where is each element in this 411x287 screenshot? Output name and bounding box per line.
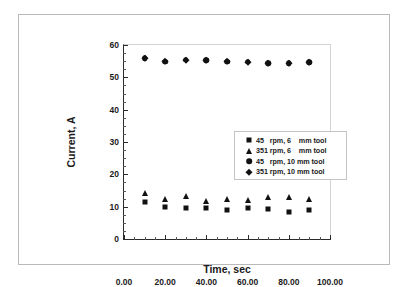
x-axis-title: Time, sec [123, 263, 331, 275]
x-tick-minor [155, 237, 156, 240]
triangle-marker-icon [244, 146, 254, 156]
y-tick-minor [123, 61, 126, 62]
x-tick-minor [320, 237, 321, 240]
x-tick-minor [145, 237, 146, 240]
x-tick-minor [227, 237, 228, 240]
data-point [162, 196, 168, 202]
y-tick-label: 10 [110, 202, 124, 212]
x-tick-major [330, 235, 331, 240]
y-tick-minor [123, 223, 126, 224]
legend-item: 351 rpm, 10 mm tool [235, 167, 346, 178]
y-tick-minor [123, 126, 126, 127]
y-tick-minor [123, 150, 126, 151]
legend-item: 351 rpm, 6 mm tool [235, 146, 346, 157]
x-tick-label: 40.00 [196, 277, 217, 287]
data-point [183, 206, 188, 211]
x-tick-label: 80.00 [278, 277, 299, 287]
x-tick-minor [279, 237, 280, 240]
x-tick-minor [258, 237, 259, 240]
x-tick-label: 100.00 [317, 277, 343, 287]
data-point [204, 206, 209, 211]
x-tick-minor [217, 237, 218, 240]
square-marker-icon [244, 135, 254, 145]
circle-marker-icon [244, 156, 254, 166]
y-tick-minor [123, 158, 126, 159]
data-point [224, 196, 230, 202]
data-point [266, 206, 271, 211]
legend-item-label: 351 rpm, 10 mm tool [256, 167, 325, 176]
legend-item-label: 45 rpm, 6 mm tool [256, 136, 326, 145]
x-tick-label: 60.00 [237, 277, 258, 287]
y-tick-minor [123, 118, 126, 119]
data-point [245, 206, 250, 211]
data-point [203, 198, 209, 204]
data-point [286, 209, 291, 214]
y-tick-label: 20 [110, 169, 124, 179]
x-tick-minor [309, 237, 310, 240]
data-point [163, 204, 168, 209]
y-tick-minor [123, 215, 126, 216]
data-point [225, 207, 230, 212]
data-point [265, 194, 271, 200]
y-tick-minor [123, 199, 126, 200]
x-tick-minor [176, 237, 177, 240]
y-tick-label: 30 [110, 137, 124, 147]
y-tick-minor [123, 191, 126, 192]
y-tick-minor [123, 94, 126, 95]
x-tick-minor [186, 237, 187, 240]
legend-item: 45 rpm, 10 mm tool [235, 156, 346, 167]
y-tick-minor [123, 53, 126, 54]
x-tick-label: 20.00 [155, 277, 176, 287]
chart-legend: 45 rpm, 6 mm tool 351 rpm, 6 mm tool 45 … [234, 131, 347, 180]
y-tick-minor [123, 85, 126, 86]
y-tick-label: 50 [110, 72, 124, 82]
x-tick-major [289, 235, 290, 240]
data-point [183, 193, 189, 199]
plot-area: 0102030405060 0.0020.0040.0060.0080.0010… [123, 44, 331, 240]
x-tick-minor [299, 237, 300, 240]
data-point [142, 200, 147, 205]
data-point [245, 197, 251, 203]
x-tick-major [165, 235, 166, 240]
data-point [306, 196, 312, 202]
x-tick-major [248, 235, 249, 240]
y-tick-label: 40 [110, 105, 124, 115]
x-tick-major [206, 235, 207, 240]
y-tick-minor [123, 182, 126, 183]
x-tick-minor [196, 237, 197, 240]
y-tick-minor [123, 102, 126, 103]
x-tick-label: 0.00 [116, 277, 133, 287]
legend-item: 45 rpm, 6 mm tool [235, 135, 346, 146]
x-tick-minor [134, 237, 135, 240]
data-point [142, 190, 148, 196]
data-point [307, 207, 312, 212]
x-tick-minor [237, 237, 238, 240]
data-point [286, 194, 292, 200]
figure-outer-frame: 0102030405060 0.0020.0040.0060.0080.0010… [18, 14, 390, 265]
legend-item-label: 351 rpm, 6 mm tool [256, 146, 326, 155]
y-tick-label: 60 [110, 40, 124, 50]
y-tick-minor [123, 134, 126, 135]
legend-item-label: 45 rpm, 10 mm tool [256, 157, 325, 166]
diamond-marker-icon [244, 167, 254, 177]
y-tick-label: 0 [114, 234, 124, 244]
y-tick-minor [123, 231, 126, 232]
x-tick-minor [268, 237, 269, 240]
y-axis-title: Current, A [65, 117, 77, 168]
y-tick-minor [123, 166, 126, 167]
y-tick-minor [123, 69, 126, 70]
